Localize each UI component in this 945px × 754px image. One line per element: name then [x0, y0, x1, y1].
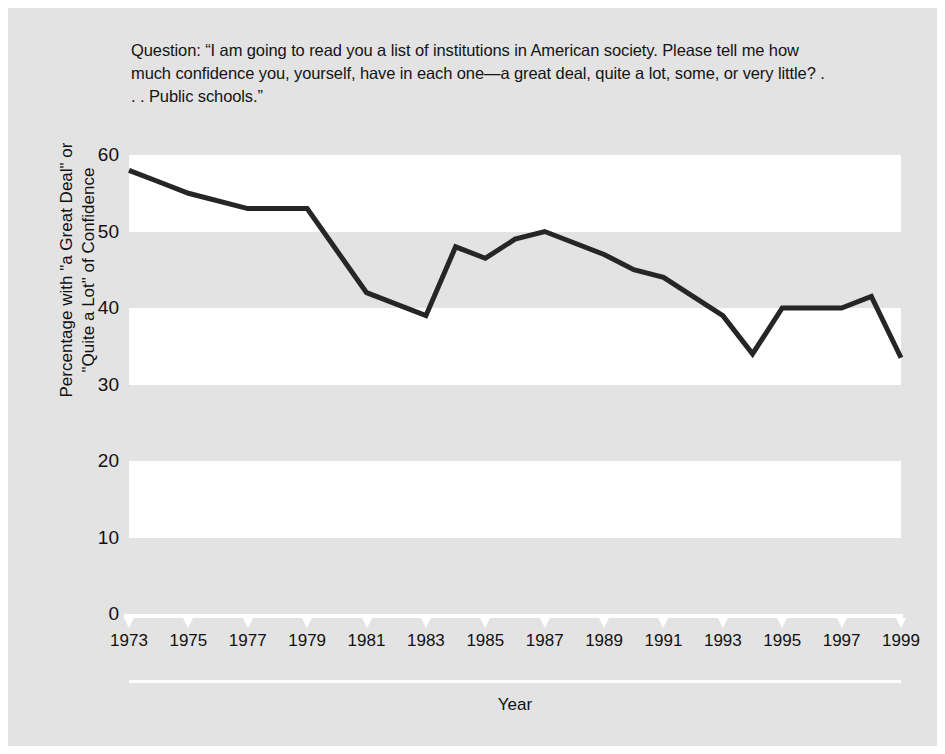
x-tick-label-1983: 1983 — [396, 631, 456, 651]
y-axis-title-line2: "Quite a Lot" of Confidence — [78, 65, 100, 475]
figure-panel: Question: “I am going to read you a list… — [8, 8, 937, 746]
x-tick-label-1991: 1991 — [633, 631, 693, 651]
x-tick-label-1997: 1997 — [812, 631, 872, 651]
x-tick-mark-1989 — [599, 618, 609, 628]
x-tick-label-1993: 1993 — [693, 631, 753, 651]
plot-area — [129, 155, 901, 614]
x-tick-mark-1999 — [896, 618, 906, 628]
x-tick-label-1973: 1973 — [99, 631, 159, 651]
x-tick-label-1985: 1985 — [455, 631, 515, 651]
x-tick-label-1987: 1987 — [515, 631, 575, 651]
x-tick-mark-1997 — [837, 618, 847, 628]
y-axis-title-line1: Percentage with "a Great Deal" or — [56, 65, 78, 475]
x-tick-mark-1993 — [718, 618, 728, 628]
y-axis-title: Percentage with "a Great Deal" or "Quite… — [56, 65, 100, 475]
x-tick-label-1979: 1979 — [277, 631, 337, 651]
x-tick-mark-1981 — [362, 618, 372, 628]
x-tick-mark-1979 — [302, 618, 312, 628]
x-tick-mark-1985 — [480, 618, 490, 628]
x-tick-mark-1983 — [421, 618, 431, 628]
series-line-confidence — [129, 170, 901, 357]
x-tick-label-1999: 1999 — [871, 631, 931, 651]
x-axis-rule — [129, 680, 901, 683]
x-tick-label-1975: 1975 — [158, 631, 218, 651]
x-tick-mark-1995 — [777, 618, 787, 628]
x-tick-mark-1991 — [658, 618, 668, 628]
x-tick-mark-1987 — [540, 618, 550, 628]
y-tick-label-10: 10 — [59, 527, 119, 549]
x-tick-mark-1973 — [124, 618, 134, 628]
x-axis-title: Year — [129, 695, 901, 715]
question-text: Question: “I am going to read you a list… — [131, 39, 831, 108]
x-tick-label-1995: 1995 — [752, 631, 812, 651]
x-axis-ticks: 1973197519771979198119831985198719891991… — [129, 618, 901, 658]
x-tick-label-1989: 1989 — [574, 631, 634, 651]
x-tick-mark-1977 — [243, 618, 253, 628]
x-tick-mark-1975 — [183, 618, 193, 628]
x-tick-label-1977: 1977 — [218, 631, 278, 651]
y-tick-label-0: 0 — [59, 603, 119, 625]
line-series-chart — [129, 155, 901, 614]
x-tick-label-1981: 1981 — [337, 631, 397, 651]
